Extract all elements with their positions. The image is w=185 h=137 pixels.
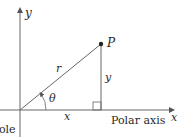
theta-label: θ	[49, 93, 56, 104]
angle-arc	[41, 94, 46, 110]
radius-label: r	[56, 63, 61, 74]
pole-label: Pole	[0, 124, 16, 135]
point-p	[99, 42, 103, 46]
right-angle-marker	[93, 102, 101, 110]
y-leg-label: y	[105, 72, 111, 83]
x-leg-label: x	[64, 111, 70, 122]
radius-line	[20, 44, 101, 110]
point-p-label: P	[107, 37, 115, 49]
y-axis-label: y	[25, 7, 32, 19]
polar-axis-label: Polar axis	[111, 115, 165, 126]
x-axis-label: x	[171, 112, 177, 123]
